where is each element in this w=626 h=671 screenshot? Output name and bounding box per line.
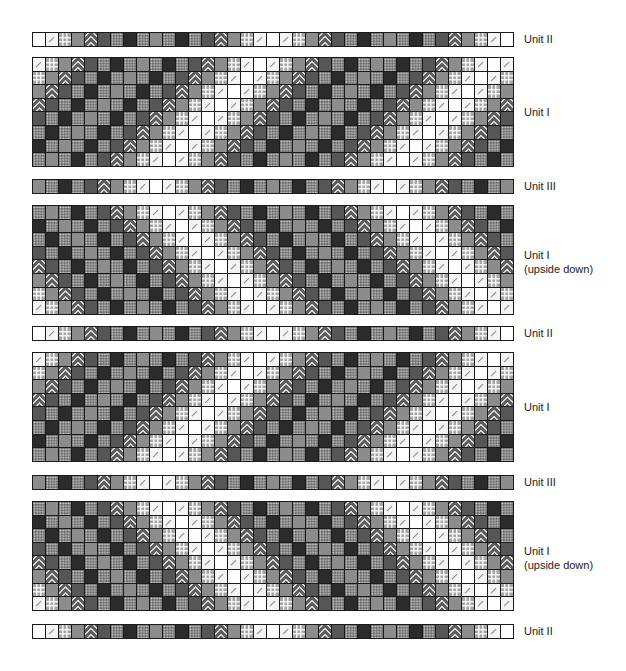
tile-zigzag-icon [58,71,72,86]
tile-dotted-icon [188,326,202,341]
tile-black-icon [318,219,332,234]
tile-light-gray-grid-icon [136,152,150,167]
tile-light-gray-grid-icon [461,300,475,315]
tile-light-gray-grid-icon [474,393,488,408]
tile-white-diagonal-icon [448,273,462,288]
tile-medium-gray-icon [435,71,449,86]
tile-zigzag-icon [240,420,254,435]
tile-white-diagonal-icon [175,232,189,247]
tile-white-icon [149,475,163,490]
tile-zigzag-icon [84,624,98,639]
tile-dark-gray-icon [344,219,358,234]
tile-zigzag-icon [84,326,98,341]
tile-white-diagonal-icon [448,379,462,394]
tile-light-gray-grid-icon [409,475,423,490]
tile-white-diagonal-icon [175,501,189,516]
tile-white-icon [188,232,202,247]
tile-dotted-icon [279,406,293,421]
tile-dark-gray-icon [461,501,475,516]
tile-dotted-icon [149,596,163,611]
tile-medium-gray-icon [45,501,59,516]
tile-zigzag-icon [266,259,280,274]
tile-white-diagonal-icon [253,366,267,381]
tile-dotted-icon [58,259,72,274]
tile-dark-gray-icon [84,352,98,367]
tile-dotted-icon [318,232,332,247]
tile-white-diagonal-icon [448,406,462,421]
tile-zigzag-icon [32,393,46,408]
tile-medium-gray-icon [266,475,280,490]
tile-medium-gray-icon [240,246,254,261]
tile-light-gray-grid-icon [266,366,280,381]
tile-light-gray-grid-icon [435,273,449,288]
tile-dotted-icon [84,420,98,435]
tile-white-diagonal-icon [474,569,488,584]
tile-dotted-icon [500,152,514,167]
tile-black-icon [110,406,124,421]
tile-black-icon [292,475,306,490]
pattern-block-unit-i-upside-down [32,501,513,610]
tile-white-diagonal-icon [45,326,59,341]
tile-medium-gray-icon [487,393,501,408]
tile-black-icon [292,246,306,261]
tile-black-icon [357,393,371,408]
tile-zigzag-icon [344,501,358,516]
tile-light-gray-grid-icon [214,366,228,381]
tile-dotted-icon [344,326,358,341]
tile-medium-gray-icon [201,287,215,302]
tile-dark-gray-icon [162,84,176,99]
tile-dark-gray-icon [292,569,306,584]
tile-white-diagonal-icon [474,352,488,367]
tile-dotted-icon [474,152,488,167]
tile-zigzag-icon [422,71,436,86]
unit-label: Unit I(upside down) [524,544,593,572]
tile-white-diagonal-icon [435,98,449,113]
tile-medium-gray-icon [435,366,449,381]
tile-dark-gray-icon [136,246,150,261]
tile-zigzag-icon [266,98,280,113]
tile-medium-gray-icon [227,326,241,341]
tile-black-icon [240,179,254,194]
pattern-row [32,259,513,273]
tile-zigzag-icon [318,32,332,47]
tile-dotted-icon [110,287,124,302]
tile-black-icon [500,515,514,530]
tile-medium-gray-icon [422,569,436,584]
tile-zigzag-icon [253,542,267,557]
tile-dark-gray-icon [71,287,85,302]
unit-label: Unit III [524,179,556,193]
tile-white-diagonal-icon [32,596,46,611]
tile-medium-gray-icon [305,326,319,341]
tile-dotted-icon [162,624,176,639]
tile-white-icon [383,475,397,490]
tile-white-icon [32,326,46,341]
tile-zigzag-icon [461,515,475,530]
tile-white-icon [500,32,514,47]
tile-dotted-icon [84,393,98,408]
tile-dotted-icon [318,555,332,570]
tile-dark-gray-icon [279,98,293,113]
tile-zigzag-icon [448,326,462,341]
tile-dotted-icon [266,152,280,167]
pattern-row [32,583,513,597]
tile-light-gray-grid-icon [461,596,475,611]
unit-label-line: Unit III [524,475,556,489]
tile-dark-gray-icon [305,287,319,302]
tile-black-icon [331,528,345,543]
tile-white-diagonal-icon [266,57,280,72]
tile-white-diagonal-icon [370,179,384,194]
tile-zigzag-icon [396,259,410,274]
pattern-block-unit-i [32,57,513,166]
tile-white-diagonal-icon [201,555,215,570]
tile-white-diagonal-icon [435,393,449,408]
tile-dark-gray-icon [84,475,98,490]
tile-black-icon [110,300,124,315]
tile-dotted-icon [292,447,306,462]
tile-black-icon [357,98,371,113]
tile-dotted-icon [396,583,410,598]
tile-dark-gray-icon [487,125,501,140]
tile-medium-gray-icon [435,205,449,220]
tile-dotted-icon [331,139,345,154]
tile-medium-gray-icon [409,555,423,570]
tile-dotted-icon [266,420,280,435]
